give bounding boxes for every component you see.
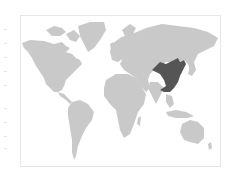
arctic-islands <box>46 26 66 36</box>
land-masses <box>22 22 218 160</box>
madagascar <box>137 116 141 126</box>
central-america <box>58 92 72 104</box>
south-america <box>68 100 94 160</box>
southeast-asia <box>166 94 174 108</box>
greenland <box>78 22 106 52</box>
australia <box>180 120 204 144</box>
north-america <box>22 40 82 92</box>
baffin-island <box>66 30 80 42</box>
world-map <box>0 0 235 177</box>
india <box>148 82 164 104</box>
indonesia <box>166 110 194 118</box>
new-zealand <box>208 142 212 150</box>
